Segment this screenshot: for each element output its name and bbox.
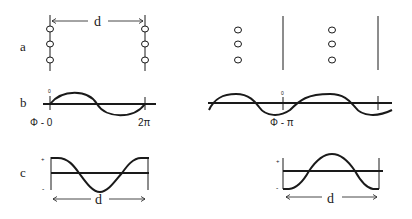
circle-marker	[47, 41, 54, 47]
circle-marker	[329, 41, 336, 47]
row-label-c: c	[20, 165, 26, 180]
sine-wave-phase-pi	[209, 94, 392, 115]
circle-marker	[235, 57, 242, 63]
phase-label-left: Φ - 0	[30, 117, 53, 128]
distance-label: d	[95, 192, 102, 207]
distance-label: d	[327, 191, 334, 206]
circle-marker	[47, 26, 54, 32]
panel-b-right	[208, 94, 392, 115]
row-label-b: b	[20, 95, 27, 110]
zero-tick-label: 0	[281, 90, 284, 96]
plus-label: +	[41, 156, 45, 162]
circle-marker	[329, 57, 336, 63]
minus-label: -	[276, 184, 279, 191]
zero-tick-label: 0	[48, 88, 51, 94]
circle-marker	[329, 27, 336, 33]
circle-marker	[142, 26, 149, 32]
circle-marker	[235, 27, 242, 33]
diagram-canvas: a b c d 0 Φ - 0 2π 0 Φ - π + - d	[0, 0, 412, 219]
circle-marker	[142, 57, 149, 63]
circle-marker	[235, 41, 242, 47]
phase-label-right: Φ - π	[270, 117, 294, 128]
end-label-2pi: 2π	[138, 117, 151, 128]
panel-b-left	[43, 93, 156, 116]
row-label-a: a	[20, 39, 26, 54]
minus-label: -	[42, 185, 45, 192]
distance-label: d	[94, 14, 101, 29]
plus-label: +	[276, 158, 280, 164]
circle-marker	[142, 41, 149, 47]
cosine-wave	[51, 158, 149, 192]
circle-marker	[47, 57, 54, 63]
